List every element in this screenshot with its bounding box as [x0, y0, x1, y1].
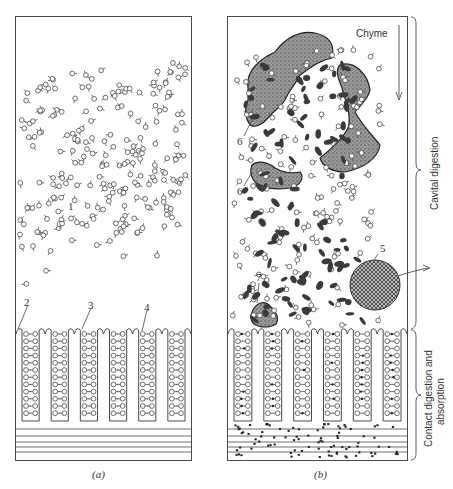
- large-particle-5: [350, 260, 400, 310]
- caption-a: (a): [92, 468, 105, 481]
- contact-bracket: [411, 330, 421, 460]
- microvilli: [236, 332, 400, 416]
- cell-layers: [16, 429, 191, 452]
- label-6a: 6: [237, 135, 243, 147]
- label-1: 1: [68, 200, 74, 212]
- label-5: 5: [380, 242, 386, 254]
- cavital-digestion-label: Cavital digestion: [429, 137, 440, 210]
- label-2: 2: [24, 296, 30, 308]
- intestinal-digestion-diagram: 1 2 3 4 (a) Chyme 6 6: [0, 0, 453, 489]
- brush-border-surface: [228, 329, 407, 421]
- label-7: 7: [256, 271, 262, 283]
- contact-digestion-label-line1: Contact digestion and: [423, 350, 434, 447]
- caption-b: (b): [314, 468, 327, 481]
- panel-a: 1 2 3 4 (a): [16, 17, 192, 482]
- chyme-label: Chyme: [356, 28, 388, 39]
- absorbed-products: [234, 423, 398, 458]
- microvilli: [24, 332, 184, 416]
- panel-b: Chyme 6 6 5 7 (b): [228, 17, 447, 482]
- label-3: 3: [88, 299, 94, 311]
- free-molecules: [18, 61, 190, 287]
- chyme-flow-arrow: [396, 25, 402, 100]
- contact-digestion-label-line2: absorption: [435, 378, 446, 425]
- exit-arrow: [398, 265, 430, 276]
- label-6b: 6: [237, 185, 243, 197]
- label-4: 4: [144, 301, 150, 313]
- cell-layers: [228, 429, 407, 452]
- cavital-bracket: [411, 17, 421, 329]
- brush-border-surface: [16, 329, 191, 421]
